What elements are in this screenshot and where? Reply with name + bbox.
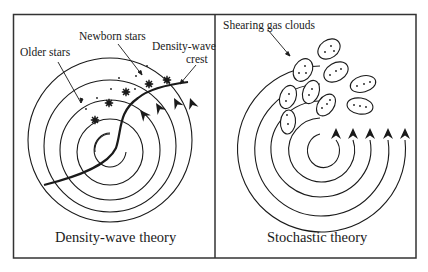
- gas-cloud: [279, 109, 296, 134]
- gas-cloud: [314, 35, 344, 64]
- gas-clouds: [276, 35, 377, 135]
- orbit-arrows: [331, 128, 410, 139]
- stochastic-panel: [237, 30, 410, 232]
- density-wave-crest-label-line2: crest: [186, 53, 208, 65]
- density-wave-caption: Density-wave theory: [55, 229, 176, 246]
- shearing-gas-clouds-label: Shearing gas clouds: [223, 19, 315, 31]
- stochastic-caption: Stochastic theory: [267, 229, 367, 246]
- density-wave-crest-label-line1: Density-wave: [152, 40, 216, 52]
- orbit-circles: [237, 66, 405, 232]
- gas-cloud: [348, 73, 377, 95]
- gas-cloud: [346, 96, 374, 115]
- older-stars-label: Older stars: [20, 46, 70, 58]
- leader-lines: [268, 30, 290, 56]
- gas-cloud: [320, 58, 352, 87]
- newborn-stars-label: Newborn stars: [79, 30, 146, 42]
- density-wave-panel: [28, 44, 198, 222]
